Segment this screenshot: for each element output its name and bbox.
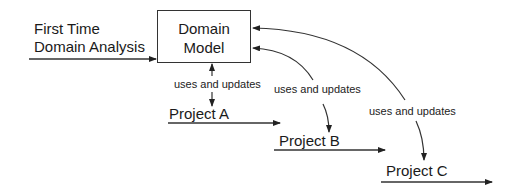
project-c-label: Project C xyxy=(386,163,448,178)
project-c-use-arrow xyxy=(416,121,424,160)
input-label-line1: First Time xyxy=(34,21,100,36)
project-b-update-arrow xyxy=(253,48,313,80)
domain-model-box: Domain Model xyxy=(157,10,251,63)
input-label-line2: Domain Analysis xyxy=(34,39,145,54)
model-box-line1: Domain xyxy=(158,21,250,36)
model-box-line2: Model xyxy=(158,40,250,55)
project-a-relation-label: uses and updates xyxy=(174,79,261,90)
project-a-label: Project A xyxy=(169,106,229,121)
project-b-relation-label: uses and updates xyxy=(274,84,361,95)
project-c-relation-label: uses and updates xyxy=(369,106,456,117)
project-b-label: Project B xyxy=(279,133,340,148)
domain-model-diagram: First Time Domain Analysis Domain Model … xyxy=(0,0,517,191)
project-b-use-arrow xyxy=(323,104,329,132)
